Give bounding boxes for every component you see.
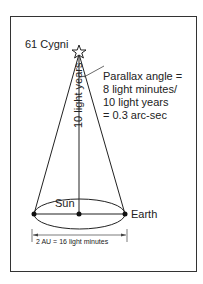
parallax-line: 10 light years xyxy=(103,96,182,109)
parallax-leader-line xyxy=(84,66,104,77)
parallax-line: = 0.3 arc-sec xyxy=(103,109,182,122)
sun-dot xyxy=(77,212,82,217)
arrowhead-left xyxy=(33,234,38,237)
earth-position-left xyxy=(32,212,37,217)
earth-label: Earth xyxy=(131,208,157,220)
distance-label: 10 light years xyxy=(72,63,84,128)
parallax-line: Parallax angle = xyxy=(103,70,182,83)
earth-position-right xyxy=(123,212,128,217)
arrowhead-right xyxy=(121,234,126,237)
parallax-line: 8 light minutes/ xyxy=(103,83,182,96)
star-label: 61 Cygni xyxy=(25,38,68,50)
baseline-label: 2 AU = 16 light minutes xyxy=(36,238,108,245)
parallax-note: Parallax angle = 8 light minutes/ 10 lig… xyxy=(103,70,182,122)
sun-label: Sun xyxy=(55,197,75,209)
